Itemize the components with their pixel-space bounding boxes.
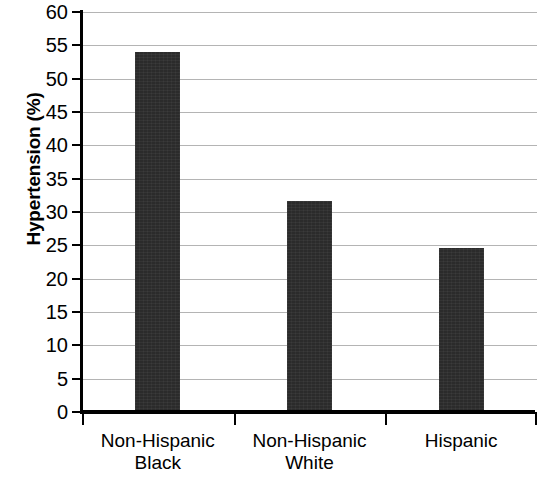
y-axis-tick-label: 20 (8, 269, 68, 289)
y-axis-tick-label: 25 (8, 235, 68, 255)
y-axis-tick (72, 211, 82, 213)
y-axis-tick (72, 178, 82, 180)
y-axis-tick (72, 411, 82, 413)
x-axis-tick (535, 412, 537, 425)
y-axis-tick (72, 111, 82, 113)
y-axis-tick-label: 60 (8, 2, 68, 22)
y-axis-tick-label: 15 (8, 302, 68, 322)
y-axis-tick (72, 44, 82, 46)
y-axis-tick (72, 244, 82, 246)
x-axis-category-label: Hispanic (385, 430, 537, 452)
x-axis-line (82, 410, 535, 414)
x-axis-category-label: Non-Hispanic White (234, 430, 386, 474)
y-axis-tick-label: 35 (8, 169, 68, 189)
y-axis-tick-label: 5 (8, 369, 68, 389)
plot-area (82, 12, 537, 412)
y-axis-tick (72, 78, 82, 80)
y-axis-tick (72, 278, 82, 280)
bar (439, 248, 484, 412)
bar (287, 201, 332, 412)
y-axis-tick (72, 344, 82, 346)
y-axis-tick-label: 45 (8, 102, 68, 122)
y-axis-tick (72, 378, 82, 380)
y-axis-tick (72, 11, 82, 13)
bar-chart-figure: Hypertension (%) 05101520253035404550556… (0, 0, 543, 487)
y-axis-tick (72, 311, 82, 313)
gridline (82, 12, 537, 13)
x-axis-tick (82, 412, 84, 425)
x-axis-tick (234, 412, 236, 425)
y-axis-tick (72, 144, 82, 146)
bar (135, 52, 180, 412)
y-axis-tick-label: 55 (8, 35, 68, 55)
y-axis-tick-label: 0 (8, 402, 68, 422)
y-axis-tick-label: 10 (8, 335, 68, 355)
y-axis-tick-label: 50 (8, 69, 68, 89)
y-axis-tick-label: 30 (8, 202, 68, 222)
y-axis-tick-label: 40 (8, 135, 68, 155)
x-axis-tick (385, 412, 387, 425)
x-axis-category-label: Non-Hispanic Black (82, 430, 234, 474)
gridline (82, 45, 537, 46)
